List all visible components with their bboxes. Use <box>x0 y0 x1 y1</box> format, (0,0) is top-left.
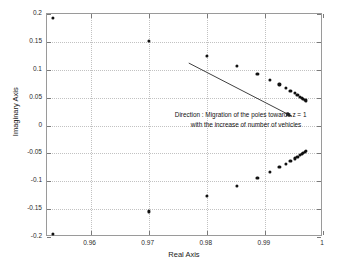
data-point <box>235 184 238 187</box>
y-axis-tick <box>47 126 51 127</box>
direction-annotation: Direction : Migration of the poles towar… <box>175 110 307 129</box>
y-tick-label: -0.15 <box>6 205 42 212</box>
y-axis-tick <box>317 126 321 127</box>
x-tick-label: 0.98 <box>199 240 212 247</box>
data-point <box>147 210 150 213</box>
y-axis-tick <box>47 209 51 210</box>
y-axis-tick <box>317 209 321 210</box>
data-point <box>52 232 55 235</box>
y-axis-tick <box>317 98 321 99</box>
y-axis-tick <box>317 70 321 71</box>
data-point <box>278 83 281 86</box>
y-tick-label: 0.2 <box>6 10 42 17</box>
data-point <box>284 162 287 165</box>
data-point <box>284 86 287 89</box>
annotation-line-1: Direction : Migration of the poles towar… <box>175 111 307 118</box>
y-axis-tick <box>47 42 51 43</box>
x-axis-tick <box>323 14 324 18</box>
data-point <box>235 65 238 68</box>
x-axis-tick <box>149 14 150 18</box>
y-axis-tick <box>317 237 321 238</box>
x-axis-tick <box>265 14 266 18</box>
y-axis-tick <box>47 153 51 154</box>
gridline-horizontal <box>47 42 321 43</box>
data-point <box>269 170 272 173</box>
x-axis-tick <box>323 231 324 235</box>
gridline-vertical <box>149 14 150 235</box>
gridline-horizontal <box>47 70 321 71</box>
x-axis-tick <box>207 14 208 18</box>
x-axis-tick <box>149 231 150 235</box>
y-axis-tick <box>47 98 51 99</box>
x-tick-label: 0.96 <box>83 240 96 247</box>
data-point <box>269 78 272 81</box>
y-axis-tick <box>317 42 321 43</box>
gridline-horizontal <box>47 153 321 154</box>
plot-area: Direction : Migration of the poles towar… <box>46 13 322 236</box>
annotation-line-2: with the increase of number of vehicles <box>175 120 307 129</box>
y-axis-tick <box>47 70 51 71</box>
y-axis-tick <box>47 14 51 15</box>
y-axis-tick <box>317 181 321 182</box>
data-point <box>205 54 208 57</box>
y-tick-label: -0.1 <box>6 177 42 184</box>
x-tick-label: 0.97 <box>141 240 154 247</box>
y-axis-tick <box>317 153 321 154</box>
x-axis-tick <box>265 231 266 235</box>
chart-figure: Direction : Migration of the poles towar… <box>0 0 338 269</box>
gridline-horizontal <box>47 98 321 99</box>
y-axis-tick <box>317 14 321 15</box>
data-point <box>147 40 150 43</box>
gridline-horizontal <box>47 181 321 182</box>
y-axis-title: Imaginary Axis <box>12 57 20 167</box>
data-point <box>289 89 292 92</box>
migration-arrow-icon <box>189 63 292 116</box>
x-axis-tick <box>91 14 92 18</box>
x-axis-tick <box>91 231 92 235</box>
x-tick-label: 0.99 <box>258 240 271 247</box>
y-tick-label: 0.15 <box>6 38 42 45</box>
data-point <box>289 159 292 162</box>
y-tick-label: -0.2 <box>6 233 42 240</box>
data-point <box>304 99 307 102</box>
y-axis-tick <box>47 181 51 182</box>
x-tick-label: 1 <box>320 240 324 247</box>
data-point <box>256 72 259 75</box>
data-point <box>52 16 55 19</box>
data-point <box>256 176 259 179</box>
data-point <box>304 150 307 153</box>
data-point <box>205 194 208 197</box>
x-axis-title: Real Axis <box>46 251 322 259</box>
gridline-vertical <box>91 14 92 235</box>
x-axis-tick <box>207 231 208 235</box>
data-point <box>278 166 281 169</box>
gridline-horizontal <box>47 209 321 210</box>
y-axis-tick <box>47 237 51 238</box>
